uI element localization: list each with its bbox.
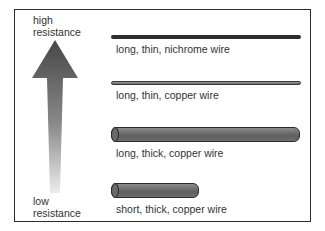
wire-end-cap: [111, 127, 119, 142]
wire-nichrome-long-thin: [111, 35, 301, 39]
wire-copper-short-thick: [111, 183, 199, 198]
wire-copper-long-thin: [111, 81, 301, 85]
wire-label: long, thick, copper wire: [116, 147, 223, 159]
low-label-line2: resistance: [33, 207, 81, 219]
wire-label: short, thick, copper wire: [116, 203, 227, 215]
wire-copper-long-thick: [111, 127, 300, 142]
high-label-line1: high: [33, 14, 53, 26]
wire-label: long, thin, nichrome wire: [116, 43, 230, 55]
low-label-line1: low: [33, 195, 49, 207]
wire-end-cap: [111, 183, 119, 198]
resistance-arrow-icon: [32, 40, 80, 195]
high-label-line2: resistance: [33, 26, 81, 38]
wire-label: long, thin, copper wire: [116, 89, 219, 101]
